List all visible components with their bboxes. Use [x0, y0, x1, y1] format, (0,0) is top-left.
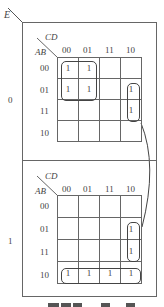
- kmap-cell: [121, 196, 142, 218]
- row-label: 11: [40, 248, 49, 257]
- kmap-cell: [58, 100, 79, 121]
- kmap-cell: [100, 58, 121, 79]
- map-divider: [22, 160, 157, 161]
- col-label: 10: [126, 46, 135, 55]
- kmap-cell: [58, 240, 79, 262]
- col-variable-label: CD: [45, 33, 58, 42]
- cutoff-caption-fragment: [61, 303, 71, 307]
- row-label: 11: [40, 107, 49, 116]
- kmap-cell: [58, 196, 79, 218]
- row-label: 01: [40, 225, 49, 234]
- kmap-cell: [79, 121, 100, 142]
- kmap-cell: [100, 218, 121, 240]
- cutoff-caption-fragment: [126, 303, 135, 307]
- row-label: 10: [40, 129, 49, 138]
- col-label: 11: [105, 46, 114, 55]
- kmap-cell: [121, 121, 142, 142]
- grouping-loop: [61, 268, 141, 284]
- cutoff-caption-fragment: [73, 303, 82, 307]
- col-label: 00: [62, 46, 71, 55]
- kmap-cell: [79, 240, 100, 262]
- kmap-cell: [100, 240, 121, 262]
- e-value-label: 0: [8, 96, 13, 105]
- row-label: 01: [40, 86, 49, 95]
- kmap-cell: [79, 100, 100, 121]
- row-label: 10: [40, 271, 49, 280]
- kmap-cell: [100, 196, 121, 218]
- kmap-cell: [79, 196, 100, 218]
- row-label: 00: [40, 202, 49, 211]
- row-variable-label: AB: [35, 187, 46, 196]
- row-variable-label: AB: [35, 48, 46, 57]
- col-label: 10: [126, 185, 135, 194]
- col-label: 11: [105, 185, 114, 194]
- row-label: 00: [40, 64, 49, 73]
- col-label: 01: [83, 185, 92, 194]
- cutoff-caption-fragment: [48, 303, 59, 307]
- kmap-cell: [100, 79, 121, 100]
- kmap-cell: [58, 121, 79, 142]
- col-label: 01: [83, 46, 92, 55]
- col-variable-label: CD: [45, 172, 58, 181]
- col-label: 00: [62, 185, 71, 194]
- outer-variable-label: E: [4, 10, 10, 20]
- grouping-loop: [127, 83, 140, 122]
- kmap-cell: [100, 100, 121, 121]
- kmap-cell: [58, 218, 79, 240]
- kmap-cell: [121, 58, 142, 79]
- kmap-cell: [79, 218, 100, 240]
- e-value-label: 1: [8, 237, 13, 246]
- cutoff-caption-fragment: [101, 303, 110, 307]
- grouping-loop: [61, 61, 97, 101]
- kmap-cell: [100, 121, 121, 142]
- grouping-loop: [127, 222, 140, 262]
